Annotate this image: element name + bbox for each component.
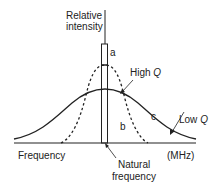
y-axis-label-line1: Relative (66, 10, 102, 21)
high-q-arrow (122, 80, 133, 92)
low-q-label: Low Q (179, 114, 208, 125)
center-label-line1: Natural (118, 159, 150, 170)
curve-a-label: a (110, 47, 116, 58)
low-q-text: Low (179, 114, 197, 125)
curve-c-low-q (14, 89, 196, 139)
center-label-line2: frequency (112, 171, 156, 182)
x-axis-unit: (MHz) (167, 150, 194, 161)
curve-c-label: c (151, 111, 156, 122)
y-axis-label-line2: intensity (66, 21, 103, 32)
high-q-text: High (130, 67, 151, 78)
curve-b-label: b (120, 121, 126, 132)
high-q-symbol: Q (153, 67, 161, 78)
low-q-symbol: Q (200, 114, 208, 125)
x-axis-label: Frequency (18, 150, 65, 161)
natural-frequency-arrow (107, 146, 116, 158)
high-q-label: High Q (130, 67, 161, 78)
curve-a-bar (102, 44, 108, 143)
